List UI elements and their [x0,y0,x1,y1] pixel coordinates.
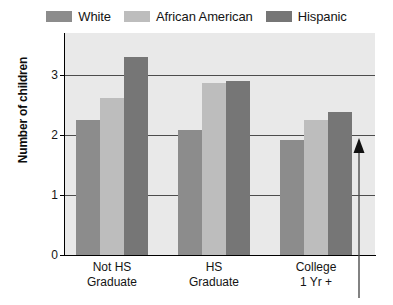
bar-hs-graduate-white [178,130,202,255]
plot-area [65,33,375,255]
legend-label: African American [156,10,253,23]
y-tick-label-0: 0 [36,249,58,261]
x-axis-line [64,255,376,256]
bar-hs-graduate-african-american [202,83,226,255]
y-tick-label-2: 2 [36,129,58,141]
bar-not-hs-graduate-african-american [100,98,124,255]
legend-item-african-american: African American [124,10,253,23]
x-tick-label-not-hs-graduate: Not HS Graduate [57,260,167,290]
y-axis-title: Number of children [16,10,30,210]
bar-college-1yr-african-american [304,120,328,255]
gridline-3 [65,75,375,76]
chart-legend: White African American Hispanic [0,6,393,26]
x-tick-label-line2: Graduate [159,275,269,290]
bar-college-1yr-hispanic [328,112,352,255]
legend-swatch-icon [266,11,292,22]
bar-not-hs-graduate-white [76,120,100,255]
legend-label: Hispanic [298,10,347,23]
y-tick-label-1: 1 [36,189,58,201]
legend-swatch-icon [46,11,72,22]
up-arrow-icon [352,138,366,298]
x-tick-label-line1: HS [159,260,269,275]
legend-item-white: White [46,10,111,23]
legend-label: White [78,10,111,23]
x-tick-label-hs-graduate: HS Graduate [159,260,269,290]
legend-item-hispanic: Hispanic [266,10,347,23]
legend-swatch-icon [124,11,150,22]
x-tick-label-line1: Not HS [57,260,167,275]
bar-not-hs-graduate-hispanic [124,57,148,255]
bar-hs-graduate-hispanic [226,81,250,255]
bar-college-1yr-white [280,140,304,255]
y-tick-label-3: 3 [36,69,58,81]
x-tick-label-line2: Graduate [57,275,167,290]
